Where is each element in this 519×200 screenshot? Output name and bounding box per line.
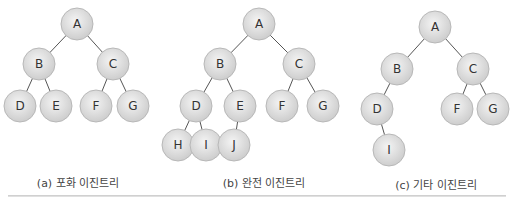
caption-complete-binary-tree: (b) 완전 이진트리 (223, 174, 306, 190)
svg-text:B: B (216, 57, 224, 71)
svg-text:B: B (393, 62, 401, 76)
tree-node-c-D: D (361, 93, 393, 125)
tree-node-c-C: C (457, 53, 489, 85)
tree-node-a-G: G (117, 90, 149, 122)
tree-node-a-C: C (97, 48, 129, 80)
tree-node-c-B: B (381, 53, 413, 85)
tree-node-b-F: F (266, 90, 298, 122)
tree-node-a-D: D (4, 90, 36, 122)
tree-node-c-G: G (477, 93, 509, 125)
edges-layer (20, 24, 493, 150)
svg-text:C: C (295, 57, 303, 71)
tree-node-a-E: E (40, 90, 72, 122)
svg-text:I: I (387, 143, 391, 157)
tree-node-b-J: J (218, 129, 250, 161)
svg-text:A: A (431, 20, 440, 34)
tree-node-c-I: I (373, 134, 405, 166)
svg-text:H: H (173, 138, 182, 152)
tree-node-b-B: B (204, 48, 236, 80)
tree-node-a-B: B (23, 48, 55, 80)
svg-text:E: E (236, 99, 244, 113)
tree-node-b-G: G (307, 90, 339, 122)
bottom-divider (8, 195, 506, 197)
svg-text:F: F (454, 102, 461, 116)
tree-node-c-A: A (419, 11, 451, 43)
svg-text:C: C (469, 62, 477, 76)
tree-node-b-H: H (162, 129, 194, 161)
tree-node-b-I: I (190, 129, 222, 161)
svg-text:G: G (128, 99, 137, 113)
svg-text:D: D (372, 102, 381, 116)
tree-node-b-E: E (224, 90, 256, 122)
tree-node-a-A: A (61, 8, 93, 40)
svg-text:C: C (109, 57, 117, 71)
svg-text:F: F (93, 99, 100, 113)
svg-text:A: A (73, 17, 82, 31)
svg-text:D: D (191, 99, 200, 113)
svg-text:B: B (35, 57, 43, 71)
svg-text:G: G (318, 99, 327, 113)
svg-text:I: I (204, 138, 208, 152)
svg-text:J: J (231, 138, 236, 152)
tree-node-b-D: D (180, 90, 212, 122)
nodes-layer: ABCDEFGABCDEFGHIJABCDFGI (4, 8, 509, 166)
svg-text:D: D (15, 99, 24, 113)
caption-other-binary-tree: (c) 기타 이진트리 (395, 176, 477, 192)
svg-text:E: E (52, 99, 60, 113)
svg-text:G: G (488, 102, 497, 116)
tree-node-a-F: F (80, 90, 112, 122)
tree-node-b-C: C (283, 48, 315, 80)
binary-tree-diagram: ABCDEFGABCDEFGHIJABCDFGI (0, 0, 519, 200)
svg-text:F: F (279, 99, 286, 113)
caption-full-binary-tree: (a) 포화 이진트리 (37, 174, 119, 190)
tree-node-c-F: F (441, 93, 473, 125)
tree-node-b-A: A (243, 8, 275, 40)
svg-text:A: A (255, 17, 264, 31)
